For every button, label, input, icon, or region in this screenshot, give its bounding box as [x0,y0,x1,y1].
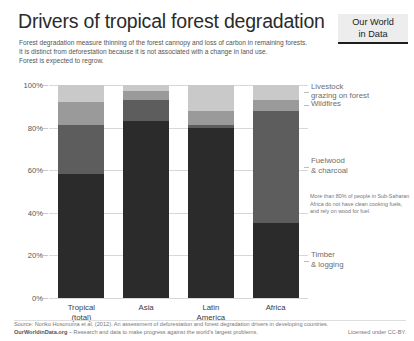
legend-label-line: Fuelwood [311,156,414,166]
y-tick-mark [43,255,48,256]
y-tick-mark [43,170,48,171]
footer-source: Source: Noriko Hosonuma et al. (2012). A… [14,320,406,329]
y-tick-mark [43,128,48,129]
bar-segment[interactable] [188,125,234,127]
y-tick-mark [43,85,48,86]
bar-latin-america[interactable]: LatinAmerica [188,85,234,298]
y-axis-tick-label: 60% [28,166,43,175]
y-axis-tick-label: 100% [24,81,43,90]
x-axis-label: Asia [110,303,182,313]
legend-label-line: Timber [311,250,414,260]
bar-asia[interactable]: Asia [123,85,169,298]
africa-annotation: More than 80% of people in Sub-Saharan A… [310,193,410,216]
legend-connector-tick [304,105,309,106]
owid-logo-line-1: Our World [338,17,408,29]
subtitle-line-1: Forest degradation measure thinning of t… [19,38,311,47]
footer: Source: Noriko Hosonuma et al. (2012). A… [14,320,406,337]
bar-segment[interactable] [188,128,234,298]
x-axis-label: Africa [240,303,312,313]
y-axis-tick-label: 20% [28,251,43,260]
subtitle-line-3: Forest is expected to regrow. [19,56,311,65]
bar-segment[interactable] [123,100,169,121]
footer-license: Licensed under CC-BY. [348,328,406,337]
bar-segment[interactable] [58,125,104,174]
x-axis-label-line: Asia [110,303,182,313]
legend-label-line: Livestock [311,82,414,92]
footer-tagline: – Research and data to make progress aga… [69,329,258,335]
x-axis-label-line: Africa [240,303,312,313]
bar-segment[interactable] [58,85,104,102]
gridline [49,298,308,299]
bar-segment[interactable] [123,85,169,91]
chart-container: Drivers of tropical forest degradation F… [0,0,414,341]
owid-logo[interactable]: Our World in Data [338,14,408,44]
bar-segment[interactable] [253,111,299,224]
y-axis-tick-label: 0% [32,294,43,303]
legend-label-line: & charcoal [311,166,414,176]
bar-segment[interactable] [253,223,299,298]
legend-item-livestock-grazing-on-forest[interactable]: Livestockgrazing on forest [311,82,414,101]
bar-africa[interactable]: Africa [253,85,299,298]
bar-segment[interactable] [58,174,104,298]
y-tick-mark [43,298,48,299]
footer-credit: OurWorldinData.org – Research and data t… [14,328,406,337]
legend-connector-tick [304,92,309,93]
legend-connector-tick [304,261,309,262]
bar-segment[interactable] [188,85,234,111]
y-axis-tick-label: 40% [28,208,43,217]
legend-label-line: & logging [311,260,414,270]
legend-label-line: grazing on forest [311,91,414,101]
legend-item-timber-logging[interactable]: Timber& logging [311,250,414,269]
bar-segment[interactable] [58,102,104,125]
x-axis-label-line: Latin [175,303,247,313]
y-tick-mark [43,213,48,214]
y-axis-tick-label: 80% [28,123,43,132]
bar-segment[interactable] [123,91,169,100]
plot-area: 0%20%40%60%80%100%Tropical(total)AsiaLat… [49,85,308,298]
subtitle-line-2: It is distinct from deforestation becaus… [19,47,311,56]
chart-subtitle: Forest degradation measure thinning of t… [19,38,311,66]
page-title: Drivers of tropical forest degradation [18,10,325,33]
bar-segment[interactable] [123,121,169,298]
legend-connector-tick [304,167,309,168]
x-axis-label-line: Tropical [45,303,117,313]
bar-tropical-total[interactable]: Tropical(total) [58,85,104,298]
bar-segment[interactable] [253,100,299,111]
owid-link[interactable]: OurWorldinData.org [14,329,67,335]
bar-segment[interactable] [188,111,234,126]
legend-item-fuelwood-charcoal[interactable]: Fuelwood& charcoal [311,156,414,175]
owid-logo-line-2: in Data [338,29,408,41]
bar-segment[interactable] [253,85,299,100]
